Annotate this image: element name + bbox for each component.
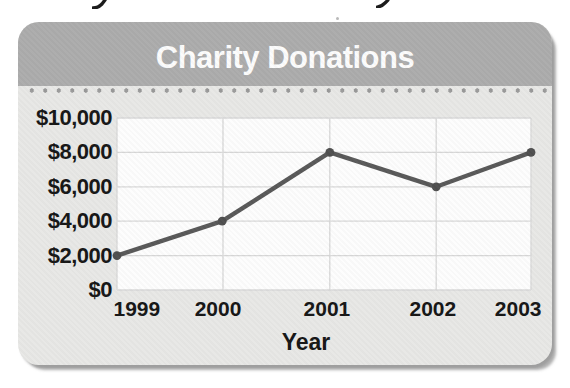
chart-card: Charity Donations $10,000$8,000$6,000$4,…	[18, 22, 552, 365]
data-point-2000	[218, 217, 227, 226]
y-tick-label: $2,000	[18, 244, 112, 268]
paper-speck-icon	[336, 17, 339, 20]
data-point-2003	[527, 148, 536, 157]
y-tick-label: $8,000	[18, 140, 112, 164]
x-axis-labels: 19992000200120022003	[117, 297, 531, 321]
chart-header: Charity Donations	[18, 22, 552, 86]
x-tick-label: 2002	[398, 297, 468, 320]
cropped-descender-mark-icon	[92, 0, 108, 9]
data-point-2001	[325, 148, 334, 157]
donations-line-series	[117, 118, 531, 290]
y-tick-label: $4,000	[18, 209, 112, 233]
y-tick-label: $10,000	[18, 106, 112, 130]
cropped-descender-mark-icon	[376, 0, 391, 8]
x-tick-label: 2003	[483, 297, 553, 320]
donations-line	[117, 152, 531, 255]
y-axis-labels: $10,000$8,000$6,000$4,000$2,000$0	[18, 118, 112, 290]
x-axis-title: Year	[246, 329, 366, 356]
data-point-1999	[113, 251, 122, 260]
x-tick-label: 2001	[292, 297, 362, 320]
chart-title: Charity Donations	[156, 40, 414, 76]
x-tick-label: 1999	[102, 297, 172, 320]
x-tick-label: 2000	[183, 297, 253, 320]
y-tick-label: $0	[18, 278, 112, 302]
data-point-2002	[432, 182, 441, 191]
y-tick-label: $6,000	[18, 175, 112, 199]
dotted-separator	[23, 87, 547, 94]
plot-area	[117, 118, 531, 290]
